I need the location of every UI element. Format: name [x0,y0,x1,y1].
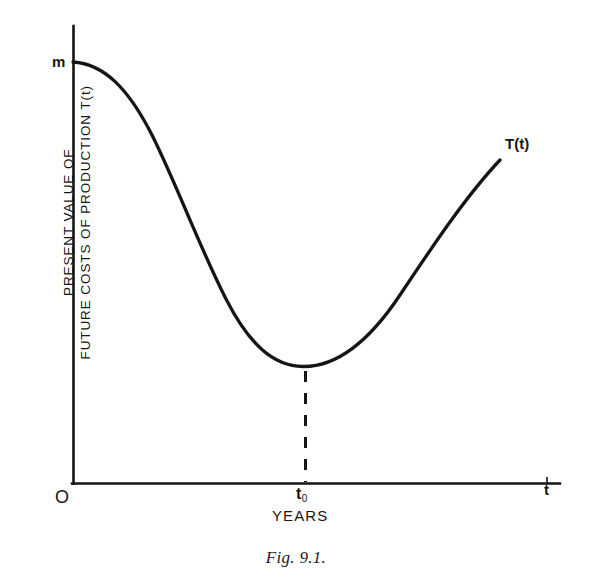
curve-label-T-of-t: T(t) [505,136,529,151]
y-axis-title-line-2: FUTURE COSTS OF PRODUCTION T(t) [77,57,94,387]
x-axis-variable-label: t [544,482,549,497]
minimum-abscissa-letter: t [296,485,301,502]
cost-curve-T [73,62,500,367]
x-axis-title: YEARS [272,508,328,523]
y-axis-title: PRESENT VALUE OF FUTURE COSTS OF PRODUCT… [60,57,95,387]
minimum-abscissa-label: t0 [296,486,307,502]
figure-caption: Fig. 9.1. [0,548,592,568]
minimum-abscissa-subscript: 0 [302,493,308,504]
figure-container: m T(t) O t0 t YEARS PRESENT VALUE OF FUT… [0,0,592,588]
origin-label: O [55,488,69,506]
y-axis-title-line-1: PRESENT VALUE OF [60,57,77,387]
